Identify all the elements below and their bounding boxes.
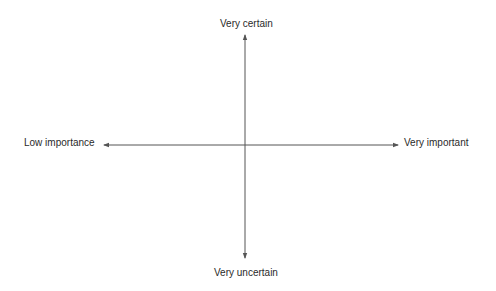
right-axis-label: Very important xyxy=(404,137,468,149)
bottom-axis-label: Very uncertain xyxy=(214,267,278,279)
top-axis-label: Very certain xyxy=(220,18,273,30)
left-axis-label: Low importance xyxy=(24,137,95,149)
